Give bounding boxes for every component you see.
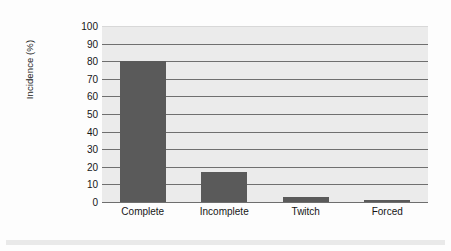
y-axis-tick-label: 80 (58, 56, 98, 67)
y-axis-title: Incidence (%) (24, 0, 35, 145)
x-axis-tick-label: Forced (332, 206, 442, 217)
gridline (102, 26, 428, 27)
bar (283, 197, 329, 202)
bar (201, 172, 247, 202)
y-axis-tick-label: 90 (58, 38, 98, 49)
y-axis-tick-label: 10 (58, 179, 98, 190)
x-axis-category-labels: CompleteIncompleteTwitchForced (102, 206, 428, 224)
y-axis-tick-label: 50 (58, 109, 98, 120)
y-axis-tick-labels: 1009080706050403020100 (58, 22, 98, 202)
y-axis-tick-label: 40 (58, 126, 98, 137)
y-axis-tick-label: 100 (58, 21, 98, 32)
y-axis-tick-label: 60 (58, 91, 98, 102)
chart-figure: Incidence (%) 1009080706050403020100 Com… (0, 0, 451, 251)
bottom-separator-strip (6, 240, 445, 245)
y-axis-tick-label: 20 (58, 161, 98, 172)
plot-area (102, 26, 428, 203)
y-axis-tick-label: 30 (58, 144, 98, 155)
gridline (102, 44, 428, 45)
bar (364, 200, 410, 202)
y-axis-tick-label: 70 (58, 73, 98, 84)
bar (120, 61, 166, 202)
